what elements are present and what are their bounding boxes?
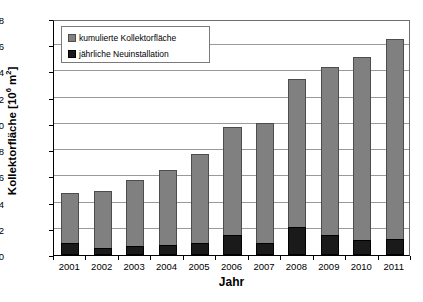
y-tick-label: 10 (0, 119, 4, 130)
bar-annual (386, 239, 404, 255)
legend-label-annual: jährliche Neuinstallation (79, 49, 169, 59)
x-tick-mark (215, 256, 216, 260)
y-tick-label: 18 (0, 15, 4, 26)
bar-cumulative (321, 67, 339, 255)
bar-group (321, 19, 339, 255)
bar-group (256, 19, 274, 255)
x-tick-mark (53, 256, 54, 260)
x-tick-mark (280, 256, 281, 260)
x-tick-mark (85, 256, 86, 260)
y-tick-label: 4 (0, 198, 4, 209)
legend-item-annual: jährliche Neuinstallation (68, 46, 209, 62)
x-tick-mark (378, 256, 379, 260)
x-tick-mark (345, 256, 346, 260)
y-tick-label: 12 (0, 93, 4, 104)
bar-annual (159, 245, 177, 255)
chart-legend: kumulierte Kollektorfläche jährliche Neu… (61, 26, 210, 63)
bar-annual (191, 243, 209, 255)
y-axis-title-text: Kollektorfläche [106 m2] (4, 67, 18, 196)
bar-annual (94, 248, 112, 255)
y-axis-exponent-two: 2 (4, 71, 13, 75)
bar-annual (223, 235, 241, 255)
bar-cumulative (353, 57, 371, 255)
y-tick-label: 16 (0, 41, 4, 52)
legend-item-cumulative: kumulierte Kollektorfläche (68, 30, 209, 46)
bar-annual (61, 243, 79, 255)
bar-annual (288, 227, 306, 255)
bar-cumulative (94, 191, 112, 255)
bar-group (386, 19, 404, 255)
x-tick-mark (313, 256, 314, 260)
y-axis-title: Kollektorfläche [106 m2] (0, 0, 22, 262)
x-tick-mark (410, 256, 411, 260)
y-tick-label: 6 (0, 172, 4, 183)
bar-cumulative (126, 180, 144, 255)
y-tick-label: 8 (0, 146, 4, 157)
x-tick-mark (248, 256, 249, 260)
legend-label-cumulative: kumulierte Kollektorfläche (79, 33, 176, 43)
x-axis-title: Jahr (53, 275, 410, 289)
bar-annual (126, 246, 144, 255)
bar-group (288, 19, 306, 255)
bar-annual (353, 240, 371, 255)
bar-cumulative (256, 123, 274, 255)
legend-swatch-gray-icon (68, 34, 76, 42)
bar-cumulative (191, 154, 209, 255)
y-tick-label: 0 (0, 251, 4, 262)
y-tick-label: 14 (0, 67, 4, 78)
bar-group (223, 19, 241, 255)
solar-collector-area-bar-chart: Kollektorfläche [106 m2] 024681012141618… (0, 0, 423, 302)
x-tick-mark (118, 256, 119, 260)
bar-group (353, 19, 371, 255)
bar-annual (256, 243, 274, 255)
y-axis-exponent-six: 6 (4, 88, 13, 92)
bar-annual (321, 235, 339, 255)
y-tick-label: 2 (0, 224, 4, 235)
bar-cumulative (386, 39, 404, 255)
bar-cumulative (159, 170, 177, 255)
legend-swatch-black-icon (68, 50, 76, 58)
x-tick-mark (183, 256, 184, 260)
x-tick-mark (150, 256, 151, 260)
x-tick-label: 2011 (374, 261, 414, 272)
